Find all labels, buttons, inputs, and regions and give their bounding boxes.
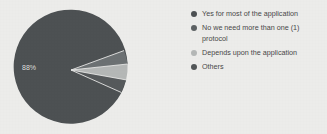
legend-color-swatch-icon — [191, 50, 197, 56]
legend-item-label: Others — [202, 62, 224, 73]
legend-item-label: Yes for most of the application — [202, 9, 298, 20]
legend-item-label: Depends upon the application — [202, 48, 297, 59]
legend-color-swatch-icon — [191, 25, 197, 31]
pie-slice-label-main: 88% — [22, 64, 36, 71]
pie-chart-plot-area: 88% — [0, 0, 185, 134]
legend-item-yes-for-most-of-the-application[interactable]: Yes for most of the application — [191, 9, 327, 20]
legend-color-swatch-icon — [191, 64, 197, 70]
legend-item-label: No we need more than one (1) protocol — [202, 23, 320, 44]
pie-chart-figure: 88% Yes for most of the application No w… — [0, 0, 327, 134]
legend-color-swatch-icon — [191, 11, 197, 17]
legend-item-depends-upon-the-application[interactable]: Depends upon the application — [191, 48, 327, 59]
legend-item-others[interactable]: Others — [191, 62, 327, 73]
legend-item-no-we-need-more-than-one-protocol[interactable]: No we need more than one (1) protocol — [191, 23, 327, 44]
chart-legend: Yes for most of the application No we ne… — [191, 9, 327, 76]
